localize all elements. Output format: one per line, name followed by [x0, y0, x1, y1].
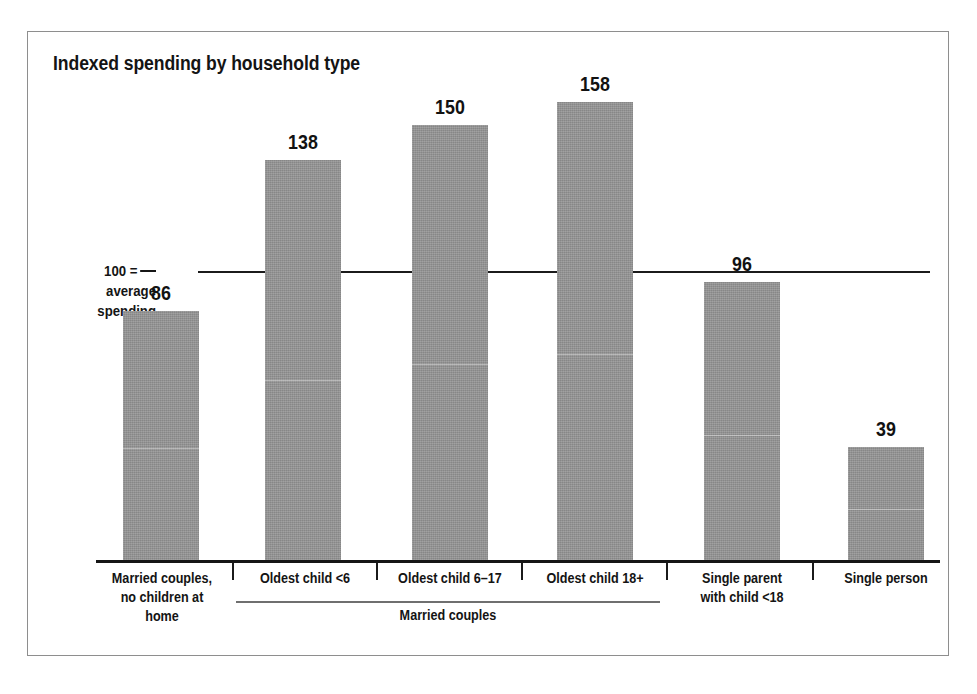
category-label-oldest-child-under-6: Oldest child <6	[249, 569, 360, 588]
axis-tick	[666, 563, 668, 580]
bar-oldest-child-18-plus	[557, 102, 633, 560]
axis-tick	[521, 563, 523, 580]
category-label-oldest-child-18-plus: Oldest child 18+	[539, 569, 650, 588]
group-bracket-label: Married couples	[264, 607, 633, 623]
category-label-line2: no children at home	[106, 588, 217, 626]
axis-annotation-value: 100 =	[104, 262, 137, 279]
bar-value-label: 150	[418, 95, 483, 119]
category-label-line1: Oldest child 6–17	[394, 569, 505, 588]
chart-figure: Indexed spending by household type 100 =…	[0, 0, 977, 694]
bar-oldest-child-6-17	[412, 125, 488, 560]
bar-value-label: 96	[710, 252, 775, 276]
bar-married-no-children	[123, 311, 199, 560]
category-label-line1: Oldest child 18+	[539, 569, 650, 588]
bar-value-label: 138	[271, 130, 336, 154]
axis-tick	[376, 563, 378, 580]
axis-tick	[232, 563, 234, 580]
category-label-line1: Married couples,	[106, 569, 217, 588]
bar-single-person	[848, 447, 924, 560]
axis-annotation-line1: 100 =	[57, 261, 156, 281]
reference-tick-icon	[140, 270, 156, 272]
bar-value-label: 158	[563, 72, 628, 96]
category-label-single-parent: Single parent with child <18	[686, 569, 797, 607]
bar-value-label: 39	[854, 417, 919, 441]
category-label-line2: with child <18	[686, 588, 797, 607]
bar-single-parent	[704, 282, 780, 560]
category-label-line1: Oldest child <6	[249, 569, 360, 588]
category-label-single-person: Single person	[830, 569, 941, 588]
category-label-line1: Single parent	[686, 569, 797, 588]
category-label-married-no-children: Married couples, no children at home	[106, 569, 217, 626]
axis-tick	[812, 563, 814, 580]
chart-title: Indexed spending by household type	[53, 52, 360, 75]
bar-value-label: 86	[129, 281, 194, 305]
group-bracket-rule	[236, 601, 660, 603]
category-label-oldest-child-6-17: Oldest child 6–17	[394, 569, 505, 588]
bar-oldest-child-under-6	[265, 160, 341, 560]
category-label-line1: Single person	[830, 569, 941, 588]
